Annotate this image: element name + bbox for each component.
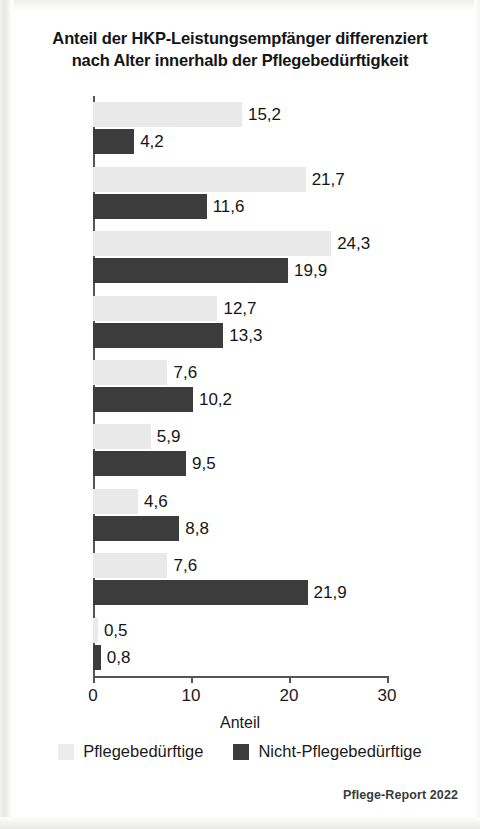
bar-value-label: 5,9: [157, 424, 181, 449]
bar-nicht-pflegebeduerftige: [93, 387, 193, 412]
bar-value-label: 21,9: [314, 580, 347, 605]
bar-pflegebeduerftige: [93, 489, 138, 514]
legend-item-pflegebeduerftige: Pflegebedürftige: [58, 742, 203, 761]
bar-value-label: 11,6: [213, 194, 245, 219]
bar-value-label: 15,2: [248, 102, 281, 127]
page-edge-bottom: [0, 817, 480, 829]
bar-group: 65–695,99,5: [0, 424, 480, 476]
bar-nicht-pflegebeduerftige: [93, 258, 288, 283]
legend-dark-swatch-icon: [233, 744, 249, 760]
legend-label-nicht-pflegebeduerftige: Nicht-Pflegebedürftige: [258, 742, 421, 761]
page-edge-top: [0, 0, 480, 10]
bar-value-label: 4,2: [140, 129, 164, 154]
bar-group: 70–747,610,2: [0, 360, 480, 412]
bar-pflegebeduerftige: [93, 424, 151, 449]
x-tick-0: [93, 676, 95, 683]
bar-group: 90+15,24,2: [0, 102, 480, 154]
x-axis-label: Anteil: [93, 714, 387, 732]
chart-title: Anteil der HKP-Leistungsempfänger differ…: [14, 28, 466, 72]
x-tick-label-20: 20: [280, 686, 299, 706]
x-tick-label-10: 10: [182, 686, 201, 706]
bar-value-label: 19,9: [294, 258, 327, 283]
bar-nicht-pflegebeduerftige: [93, 323, 223, 348]
bar-pflegebeduerftige: [93, 360, 167, 385]
bar-nicht-pflegebeduerftige: [93, 129, 134, 154]
bar-pflegebeduerftige: [93, 167, 306, 192]
bar-value-label: 9,5: [192, 451, 216, 476]
bar-value-label: 7,6: [173, 553, 197, 578]
bar-value-label: 21,7: [312, 167, 345, 192]
chart-page: Anteil der HKP-Leistungsempfänger differ…: [0, 0, 480, 829]
bar-group: 0–190,50,8: [0, 618, 480, 670]
chart-title-line-2: nach Alter innerhalb der Pflegebedürftig…: [14, 50, 466, 72]
x-tick-10: [191, 676, 193, 683]
bar-nicht-pflegebeduerftige: [93, 516, 179, 541]
bar-pflegebeduerftige: [93, 296, 217, 321]
bar-pflegebeduerftige: [93, 231, 331, 256]
bar-pflegebeduerftige: [93, 102, 242, 127]
bar-pflegebeduerftige: [93, 618, 98, 643]
bar-nicht-pflegebeduerftige: [93, 451, 186, 476]
source-note: Pflege-Report 2022: [343, 788, 458, 802]
legend-label-pflegebeduerftige: Pflegebedürftige: [83, 742, 203, 761]
x-tick-label-30: 30: [378, 686, 397, 706]
legend-item-nicht-pflegebeduerftige: Nicht-Pflegebedürftige: [233, 742, 421, 761]
bar-value-label: 0,8: [107, 645, 131, 670]
bar-group: 60–644,68,8: [0, 489, 480, 541]
legend-light-swatch-icon: [58, 744, 74, 760]
bar-value-label: 13,3: [229, 323, 262, 348]
bar-value-label: 10,2: [199, 387, 232, 412]
bar-nicht-pflegebeduerftige: [93, 580, 308, 605]
bar-value-label: 4,6: [144, 489, 168, 514]
bar-value-label: 8,8: [185, 516, 209, 541]
bar-nicht-pflegebeduerftige: [93, 194, 207, 219]
bar-value-label: 24,3: [337, 231, 370, 256]
bar-group: 85–8921,711,6: [0, 167, 480, 219]
chart-title-line-1: Anteil der HKP-Leistungsempfänger differ…: [14, 28, 466, 50]
bar-chart: 0102030 90+15,24,285–8921,711,680–8424,3…: [0, 92, 480, 680]
bar-value-label: 12,7: [223, 296, 256, 321]
bar-group: 80–8424,319,9: [0, 231, 480, 283]
bar-group: 20–597,621,9: [0, 553, 480, 605]
x-tick-30: [387, 676, 389, 683]
bar-nicht-pflegebeduerftige: [93, 645, 101, 670]
x-tick-20: [289, 676, 291, 683]
chart-legend: Pflegebedürftige Nicht-Pflegebedürftige: [0, 742, 480, 761]
x-tick-label-0: 0: [88, 686, 97, 706]
bar-group: 75–7912,713,3: [0, 296, 480, 348]
bar-value-label: 0,5: [104, 618, 128, 643]
x-axis-line: [93, 676, 387, 678]
bar-pflegebeduerftige: [93, 553, 167, 578]
bar-value-label: 7,6: [173, 360, 197, 385]
